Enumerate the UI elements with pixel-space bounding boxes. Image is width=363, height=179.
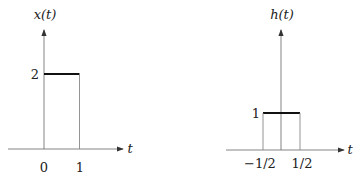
h-title: h(t) [270, 7, 294, 22]
diagram-svg: x(t) 2 0 1 t h(t) 1 −1/2 1/2 t [0, 0, 363, 179]
signal-diagram: x(t) 2 0 1 t h(t) 1 −1/2 1/2 t [0, 0, 363, 179]
x-title: x(t) [34, 7, 57, 22]
h-xtick-half: 1/2 [292, 156, 313, 171]
plot-h: h(t) 1 −1/2 1/2 t [226, 7, 353, 171]
x-ytick-2: 2 [31, 67, 39, 82]
h-axis-label-t: t [347, 142, 353, 157]
x-axis-label-t: t [127, 141, 133, 156]
x-xtick-0: 0 [40, 160, 48, 175]
x-xtick-1: 1 [76, 160, 84, 175]
plot-x: x(t) 2 0 1 t [8, 7, 133, 175]
h-xtick-neg-half: −1/2 [244, 156, 276, 171]
h-ytick-1: 1 [252, 106, 260, 121]
